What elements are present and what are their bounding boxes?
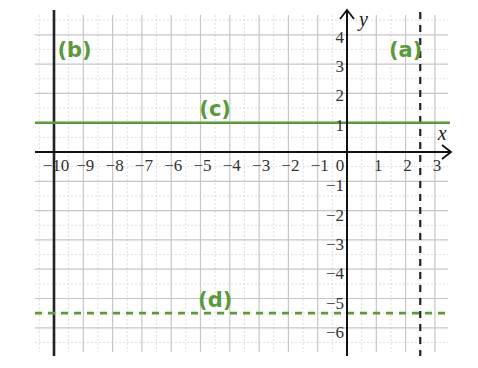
x-tick-label: −5 [193,156,211,175]
tick-labels: −10−9−8−7−6−5−4−3−2−101234321−1−2−3−4−5−… [43,28,441,342]
x-tick-label: −3 [252,156,270,175]
y-tick-label: −5 [326,294,344,313]
x-tick-label: 0 [336,156,345,175]
label-a: (a) [389,38,422,62]
y-tick-label: −2 [326,206,344,225]
y-tick-label: −4 [326,264,345,283]
label-d: (d) [198,288,232,312]
y-tick-label: −6 [326,323,344,342]
label-c: (c) [199,97,231,121]
x-tick-label: −9 [76,156,94,175]
x-tick-label: 3 [433,156,442,175]
x-tick-label: 2 [403,156,412,175]
y-tick-label: 1 [336,116,345,135]
x-tick-label: −1 [311,156,329,175]
major-grid [35,15,448,352]
y-tick-label: 2 [336,86,345,105]
y-tick-label: −3 [326,235,344,254]
coordinate-plane: yx −10−9−8−7−6−5−4−3−2−101234321−1−2−3−4… [0,0,478,368]
x-tick-label: −6 [164,156,182,175]
x-tick-label: −4 [223,156,242,175]
x-tick-label: −8 [106,156,124,175]
minor-grid [35,15,448,352]
x-axis-label: x [437,122,447,144]
y-tick-label: 3 [336,57,345,76]
x-tick-label: −10 [43,156,70,175]
plotted-lines [35,10,450,356]
y-tick-label: 4 [336,28,345,47]
y-axis-label: y [357,8,368,31]
label-b: (b) [57,38,91,62]
x-tick-label: 1 [374,156,383,175]
x-tick-label: −2 [281,156,299,175]
x-tick-label: −7 [135,156,154,175]
y-tick-label: −1 [326,176,344,195]
